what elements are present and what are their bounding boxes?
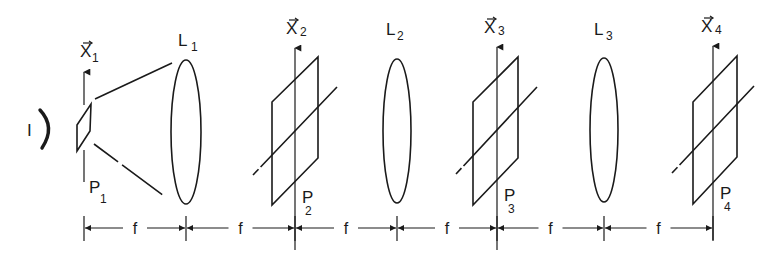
svg-text:4: 4 [724, 200, 731, 214]
dimension-segment: f [296, 220, 396, 237]
svg-text:3: 3 [508, 202, 515, 216]
axis-x4-label: X 4 [701, 16, 722, 37]
plane-p4-frame [693, 56, 737, 204]
svg-text:3: 3 [606, 29, 613, 43]
axis-x2-label: X 2 [286, 18, 307, 39]
plane-p1: X 1 P 1 [77, 41, 107, 206]
svg-text:2: 2 [305, 204, 312, 218]
svg-text:P: P [89, 178, 100, 197]
svg-text:2: 2 [397, 29, 404, 43]
dimension-segment: f [398, 220, 496, 237]
dimension-segment: f [498, 220, 603, 237]
lens-l2-shape [383, 59, 411, 203]
source-arc-icon [40, 110, 49, 148]
svg-text:1: 1 [100, 192, 107, 206]
svg-text:4: 4 [715, 23, 722, 37]
focal-length-label: f [344, 220, 349, 237]
focal-length-label: f [445, 220, 450, 237]
focal-length-label: f [656, 220, 661, 237]
focal-spacing-dimensions: ffffff [84, 216, 713, 241]
dimension-segment: f [187, 220, 294, 237]
lens-l1: L 1 [171, 31, 201, 204]
aperture-p1 [77, 104, 91, 151]
focal-length-label: f [238, 220, 243, 237]
beam-upper-ray [95, 63, 172, 99]
plane-p3: X 3 P 3 [456, 17, 537, 250]
axis-x1-label: X 1 [80, 41, 99, 65]
plane-p1-label: P 1 [89, 178, 107, 206]
svg-text:3: 3 [498, 24, 505, 38]
lens-l1-shape [171, 60, 201, 204]
svg-text:1: 1 [92, 51, 99, 65]
lens-l3: L 3 [590, 20, 618, 202]
lens-l3-shape [590, 58, 618, 202]
axis-x3-label: X 3 [484, 17, 505, 38]
plane-p2-label: P 2 [302, 188, 313, 218]
dimension-segment: f [605, 220, 712, 237]
plane-p4: X 4 P 4 [672, 16, 754, 240]
focal-length-label: f [548, 220, 553, 237]
lens-l2: L 2 [383, 20, 411, 203]
focal-length-label: f [133, 220, 138, 237]
svg-text:L: L [178, 31, 187, 50]
plane-p3-label: P 3 [504, 186, 515, 216]
svg-text:L: L [594, 20, 603, 39]
plane-p4-label: P 4 [720, 184, 731, 214]
light-source: I [27, 110, 49, 148]
plane-p2: X 2 P 2 [253, 18, 337, 250]
svg-text:2: 2 [300, 25, 307, 39]
svg-text:L: L [386, 20, 395, 39]
source-label: I [27, 121, 32, 140]
optical-diagram: I X 1 P 1 L 1 X 2 [0, 0, 777, 258]
dimension-segment: f [85, 220, 185, 237]
svg-text:1: 1 [191, 40, 198, 54]
